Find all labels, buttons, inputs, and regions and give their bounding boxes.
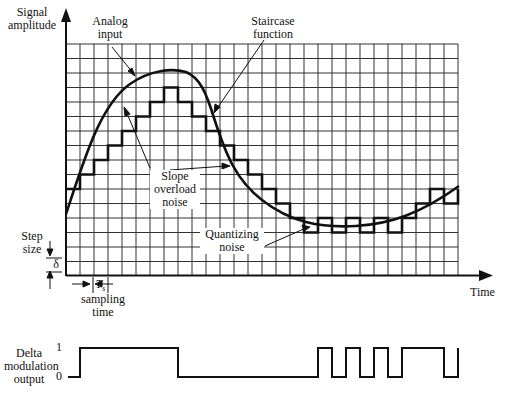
x-axis-arrow-icon <box>479 270 493 281</box>
arrow-icon <box>83 281 90 287</box>
x-axis-label: Time <box>470 286 495 299</box>
slope-overload-noise-label: Slope overload noise <box>150 170 200 209</box>
arrow-icon <box>222 163 230 169</box>
sampling-time-label: sampling time <box>78 293 128 319</box>
delta-modulation-diagram <box>0 0 505 398</box>
quantizing-noise-label: Quantizing noise <box>200 228 264 254</box>
arrow-icon <box>47 249 53 256</box>
arrow-icon <box>302 225 310 231</box>
y-axis-label: Signal amplitude <box>6 6 58 32</box>
y-axis-arrow-icon <box>61 8 71 22</box>
staircase-function-label: Staircase function <box>242 15 304 41</box>
delta-modulation-output-label: Delta modulation output <box>4 347 54 386</box>
delta-symbol: δ <box>50 258 62 271</box>
arrow-icon <box>124 107 130 116</box>
level-one-label: 1 <box>56 341 62 354</box>
arrow-icon <box>128 68 135 76</box>
analog-input-label: Analog input <box>88 15 132 41</box>
level-zero-label: 0 <box>56 370 62 383</box>
axes <box>61 8 493 281</box>
delta-modulation-output-waveform <box>68 348 458 377</box>
step-size-label: Step size <box>18 230 46 256</box>
